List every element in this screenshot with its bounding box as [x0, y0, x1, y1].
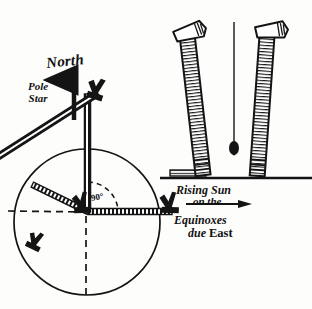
sight-vane-center-collar	[74, 207, 91, 214]
label-rising-sun: Rising Sun on the	[176, 184, 231, 207]
diagram-canvas: North Pole Star 90° Rising Sun on the Eq…	[0, 0, 312, 309]
plumb-line-group	[229, 22, 239, 156]
label-pole-star: Pole Star	[28, 81, 48, 104]
sight-vane-southwest	[24, 229, 45, 252]
label-equinoxes-line2: due East	[188, 227, 233, 240]
diagram-svg	[0, 0, 312, 309]
east-arrow-head	[238, 200, 252, 208]
post-left	[172, 20, 222, 177]
post-left-shaft	[179, 31, 210, 176]
label-pole-star-line1: Pole	[28, 80, 48, 92]
rod-east	[88, 209, 172, 215]
label-pole-star-line2: Star	[29, 92, 48, 104]
label-equinoxes: Equinoxes due East	[174, 214, 233, 240]
ground-group	[160, 170, 312, 178]
label-rising-sun-line2: on the	[193, 196, 231, 207]
label-due: due	[188, 226, 209, 240]
post-right-shaft	[250, 30, 275, 177]
post-right	[245, 19, 289, 177]
label-east: East	[209, 226, 233, 240]
post-left-cap	[172, 20, 207, 42]
rod-east-body	[88, 209, 172, 215]
